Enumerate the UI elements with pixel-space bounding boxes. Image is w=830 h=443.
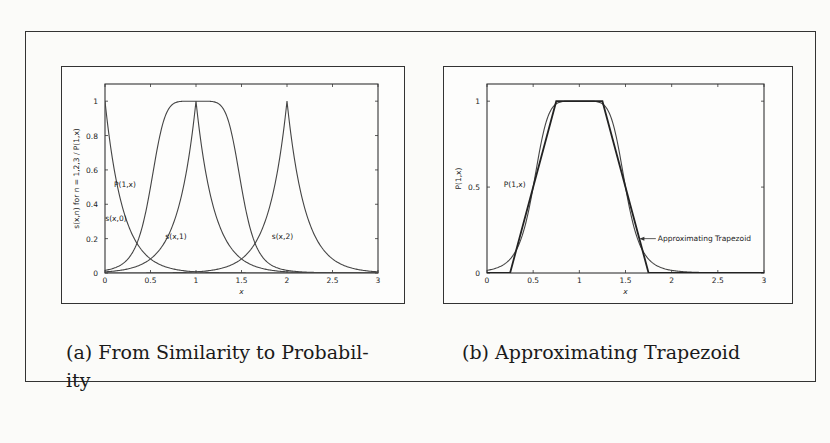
x-tick-label: 2.5 — [712, 276, 724, 285]
series-group — [487, 101, 764, 273]
annotation-label: Approximating Trapezoid — [658, 234, 751, 243]
caption-a: (a) From Similarity to Probabil- ity — [66, 338, 386, 394]
x-tick-label: 2 — [669, 276, 674, 285]
x-tick-label: 3 — [762, 276, 767, 285]
caption-a-line2: ity — [66, 366, 386, 394]
x-axis-label: x — [622, 287, 628, 296]
plot-area — [487, 84, 764, 273]
x-tick-label: 1.5 — [620, 276, 632, 285]
series-approximating-trapezoid — [487, 101, 764, 273]
y-tick-label: 1 — [475, 97, 480, 106]
y-tick-label: 0.5 — [468, 183, 480, 192]
caption-a-line1: (a) From Similarity to Probabil- — [66, 338, 386, 366]
x-tick-label: 0.5 — [527, 276, 539, 285]
y-tick-label: 0 — [475, 269, 480, 278]
x-tick-label: 1 — [577, 276, 582, 285]
y-axis-label: P(1,x) — [454, 167, 463, 189]
annotation-label: P(1,x) — [504, 180, 526, 189]
x-tick-label: 0 — [485, 276, 490, 285]
caption-b: (b) Approximating Trapezoid — [462, 338, 782, 366]
